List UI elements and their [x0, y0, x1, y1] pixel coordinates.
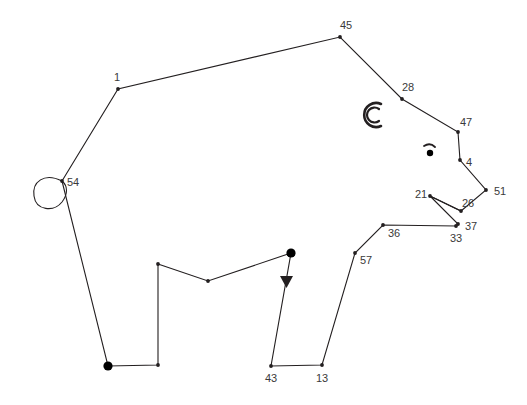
node-dot-54 — [60, 179, 64, 183]
node-label-36: 36 — [388, 227, 400, 239]
node-dot-13 — [320, 363, 324, 367]
node-dot-belly-right — [286, 248, 295, 257]
node-dot-belly-middle — [206, 279, 210, 283]
node-label-47: 47 — [460, 116, 472, 128]
node-dot-51 — [484, 188, 488, 192]
eye-icon — [427, 150, 433, 156]
node-dots-group — [60, 35, 488, 371]
node-label-4: 4 — [466, 156, 472, 168]
node-label-54: 54 — [67, 176, 79, 188]
node-dot-1 — [116, 87, 120, 91]
node-label-57: 57 — [360, 254, 372, 266]
drawing-canvas: 1452847451262137333657134354 — [0, 0, 527, 405]
node-label-1: 1 — [114, 71, 120, 83]
node-dot-28 — [400, 97, 404, 101]
node-dot-57 — [353, 251, 357, 255]
node-dot-paw-front-left — [103, 361, 112, 370]
node-dot-21 — [428, 194, 432, 198]
leg-direction-arrow-icon — [280, 276, 293, 288]
node-dot-belly-left — [156, 262, 160, 266]
node-label-37: 37 — [465, 220, 477, 232]
node-dot-36 — [381, 223, 385, 227]
bear-body-outline — [62, 37, 486, 366]
node-label-28: 28 — [402, 81, 414, 93]
eyebrow-arc-icon — [424, 144, 435, 147]
node-dot-47 — [456, 130, 460, 134]
node-dot-43 — [269, 364, 273, 368]
node-dot-33 — [454, 224, 458, 228]
node-label-33: 33 — [450, 232, 462, 244]
ear-inner-arc-icon — [367, 108, 379, 123]
node-label-13: 13 — [316, 372, 328, 384]
node-label-26: 26 — [462, 197, 474, 209]
snout-fork-segment — [430, 196, 461, 211]
node-dot-26 — [459, 209, 463, 213]
node-label-45: 45 — [340, 19, 352, 31]
node-label-21: 21 — [415, 188, 427, 200]
node-dot-45 — [338, 35, 342, 39]
node-label-51: 51 — [494, 185, 506, 197]
node-label-43: 43 — [265, 372, 277, 384]
node-dot-paw-front-right — [156, 363, 160, 367]
node-dot-4 — [458, 158, 462, 162]
bear-dot-to-dot-figure: 1452847451262137333657134354 — [0, 0, 527, 405]
